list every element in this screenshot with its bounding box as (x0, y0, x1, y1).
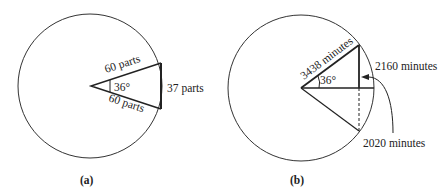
side-top-label-a: 60 parts (103, 52, 142, 76)
panel-b: 36° 3438 minutes 2160 minutes 2020 minut… (228, 15, 438, 187)
angle-label-a: 36° (114, 81, 131, 93)
lower-radius-b (301, 88, 359, 131)
chord-label-a: 37 parts (167, 82, 204, 95)
half-chord-label-b: 2020 minutes (363, 137, 426, 149)
angle-label-b: 36° (320, 74, 337, 86)
pointer-curve-b (369, 77, 393, 133)
arrowhead-icon (361, 74, 369, 80)
sine-label-b: 2160 minutes (375, 60, 438, 72)
side-bottom-label-a: 60 parts (107, 91, 146, 115)
caption-b: (b) (290, 174, 304, 187)
caption-a: (a) (80, 174, 94, 187)
figure: 36° 60 parts 60 parts 37 parts (a) 36° 3… (0, 0, 442, 196)
panel-a: 36° 60 parts 60 parts 37 parts (a) (18, 14, 204, 187)
